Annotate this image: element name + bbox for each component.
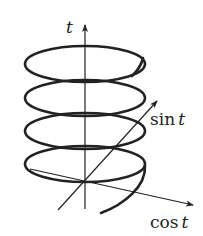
t-axis-label: t <box>66 17 73 37</box>
cos-var: t <box>181 212 188 232</box>
sin-axis-label: sint <box>150 109 185 129</box>
sin-fn: sin <box>150 109 175 129</box>
cos-axis <box>30 169 193 205</box>
sin-var: t <box>178 109 185 129</box>
cos-axis-label: cost <box>150 212 188 232</box>
helix-diagram: t sint cost <box>0 0 203 236</box>
cos-fn: cos <box>150 212 178 232</box>
